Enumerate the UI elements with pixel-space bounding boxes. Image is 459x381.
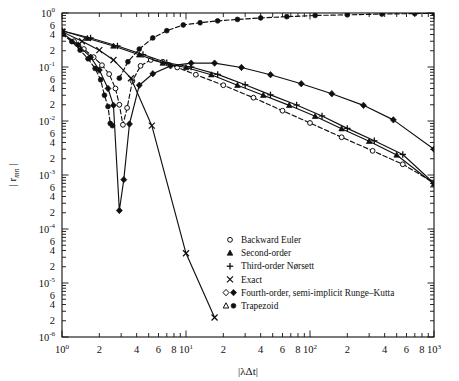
chart-background — [0, 0, 459, 381]
tick-label: 2 — [50, 45, 55, 56]
data-marker — [235, 17, 240, 22]
data-marker — [280, 108, 285, 113]
data-marker — [284, 14, 289, 19]
tick-label: 4 — [50, 29, 56, 40]
data-marker — [98, 77, 103, 82]
data-marker — [345, 12, 350, 17]
tick-label: 4 — [50, 137, 56, 148]
figure-container: 100101102103246824682468 10010-110-210-3… — [0, 0, 459, 381]
tick-label: 6 — [404, 344, 409, 355]
tick-label: 2 — [50, 315, 55, 326]
tick-label: 6 — [156, 344, 161, 355]
data-marker — [231, 303, 236, 308]
data-marker — [78, 48, 83, 53]
tick-label: 4 — [382, 344, 388, 355]
data-marker — [117, 76, 122, 81]
legend-label: Exact — [241, 275, 263, 285]
data-marker — [93, 66, 98, 71]
tick-label: 4 — [50, 191, 56, 202]
data-marker — [313, 13, 318, 18]
tick-label: 8 — [295, 344, 300, 355]
data-marker — [193, 72, 198, 77]
tick-label: 6 — [280, 344, 285, 355]
legend-label: Second-order — [241, 248, 292, 258]
chart-canvas: 100101102103246824682468 10010-110-210-3… — [0, 0, 459, 381]
data-marker — [100, 63, 105, 68]
data-marker — [86, 56, 91, 61]
data-marker — [138, 63, 143, 68]
tick-label: 4 — [50, 299, 56, 310]
legend-label: Third-order Nørsett — [241, 261, 314, 271]
data-marker — [181, 23, 186, 28]
data-marker — [308, 121, 313, 126]
data-marker — [106, 104, 111, 109]
tick-label: 4 — [50, 83, 56, 94]
tick-label: 4 — [258, 344, 264, 355]
data-marker — [107, 72, 112, 77]
legend-label: Trapezoid — [241, 301, 279, 311]
tick-label: 4 — [134, 344, 140, 355]
data-marker — [258, 16, 263, 21]
data-marker — [370, 148, 375, 153]
data-marker — [137, 47, 142, 52]
data-marker — [121, 122, 126, 127]
data-marker — [69, 39, 74, 44]
tick-label: 2 — [50, 261, 55, 272]
tick-label: 2 — [50, 153, 55, 164]
data-marker — [400, 162, 405, 167]
legend-label: Backward Euler — [241, 235, 302, 245]
tick-label: 2 — [97, 344, 102, 355]
data-marker — [113, 86, 118, 91]
legend-label: Fourth-order, semi-implicit Runge–Kutta — [241, 288, 394, 298]
legend-item[interactable]: Fourth-order, semi-implicit Runge–Kutta — [223, 288, 394, 298]
data-marker — [251, 95, 256, 100]
tick-label: 8 — [419, 344, 424, 355]
data-marker — [150, 36, 155, 41]
data-marker — [102, 93, 107, 98]
data-marker — [117, 102, 122, 107]
data-marker — [221, 83, 226, 88]
data-marker — [215, 18, 220, 23]
data-marker — [164, 28, 169, 33]
data-marker — [339, 135, 344, 140]
tick-label: 2 — [221, 344, 226, 355]
data-marker — [198, 20, 203, 25]
tick-label: 2 — [345, 344, 350, 355]
x-axis-title: |λΔt| — [238, 365, 258, 377]
data-marker — [110, 123, 115, 128]
tick-label: 2 — [50, 207, 55, 218]
data-marker — [125, 105, 130, 110]
data-marker — [228, 237, 233, 242]
tick-label: 4 — [50, 245, 56, 256]
data-marker — [126, 59, 131, 64]
tick-label: 8 — [171, 344, 176, 355]
tick-label: 2 — [50, 99, 55, 110]
